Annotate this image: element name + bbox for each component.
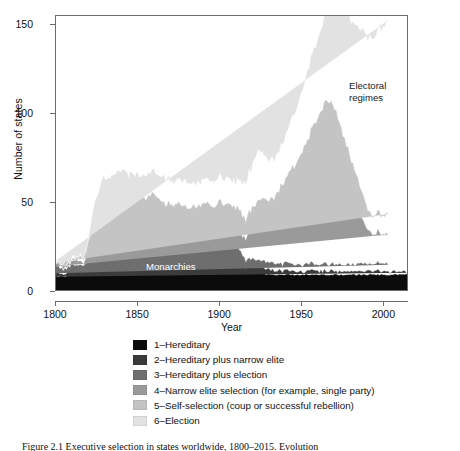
x-tick-label: 1950 xyxy=(290,308,313,320)
legend-label: 4–Narrow elite selection (for example, s… xyxy=(154,385,375,396)
legend: 1–Hereditary2–Hereditary plus narrow eli… xyxy=(133,337,375,428)
x-tick-mark xyxy=(301,301,302,306)
legend-item[interactable]: 3–Hereditary plus election xyxy=(133,367,375,382)
legend-item[interactable]: 6–Election xyxy=(133,413,375,428)
legend-label: 6–Election xyxy=(154,415,200,426)
legend-label: 3–Hereditary plus election xyxy=(154,369,267,380)
legend-item[interactable]: 1–Hereditary xyxy=(133,337,375,352)
plot-clip xyxy=(55,15,408,291)
x-tick-label: 1900 xyxy=(207,308,230,320)
figure-panel: Number of states 050100150 Electoral reg… xyxy=(0,0,460,451)
legend-swatch xyxy=(133,400,147,410)
legend-label: 5–Self-selection (coup or successful reb… xyxy=(154,400,354,411)
y-axis-ticks: 050100150 xyxy=(0,0,47,451)
legend-swatch xyxy=(133,385,147,395)
stacked-area-chart xyxy=(55,15,408,291)
plot-area xyxy=(55,15,408,291)
legend-label: 1–Hereditary xyxy=(154,339,210,350)
x-tick-label: 2000 xyxy=(372,308,395,320)
x-axis-line xyxy=(55,301,408,302)
y-tick-label: 50 xyxy=(21,196,33,208)
y-tick-label: 150 xyxy=(15,18,33,30)
x-tick-mark xyxy=(137,301,138,306)
figure-caption: Figure 2.1 Executive selection in states… xyxy=(22,441,438,451)
x-tick-mark xyxy=(383,301,384,306)
legend-swatch xyxy=(133,355,147,365)
x-tick-label: 1850 xyxy=(125,308,148,320)
legend-swatch xyxy=(133,370,147,380)
legend-item[interactable]: 2–Hereditary plus narrow elite xyxy=(133,352,375,367)
y-tick-mark xyxy=(50,113,55,114)
y-tick-mark xyxy=(50,202,55,203)
x-tick-mark xyxy=(219,301,220,306)
legend-swatch xyxy=(133,416,147,426)
annotation-monarchies: Monarchies xyxy=(146,261,196,273)
x-tick-label: 1800 xyxy=(43,308,66,320)
legend-item[interactable]: 4–Narrow elite selection (for example, s… xyxy=(133,383,375,398)
y-tick-label: 0 xyxy=(27,285,33,297)
x-tick-mark xyxy=(55,301,56,306)
legend-item[interactable]: 5–Self-selection (coup or successful reb… xyxy=(133,398,375,413)
annotation-electoral-regimes: Electoral regimes xyxy=(349,80,386,103)
legend-label: 2–Hereditary plus narrow elite xyxy=(154,354,284,365)
legend-swatch xyxy=(133,340,147,350)
x-axis-label: Year xyxy=(55,321,408,333)
y-tick-mark xyxy=(50,291,55,292)
y-tick-mark xyxy=(50,24,55,25)
y-tick-label: 100 xyxy=(15,107,33,119)
